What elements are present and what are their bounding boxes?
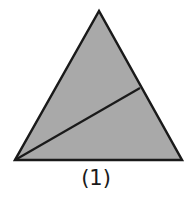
figure-label: (1) — [0, 166, 192, 190]
triangle-shape — [15, 11, 182, 160]
